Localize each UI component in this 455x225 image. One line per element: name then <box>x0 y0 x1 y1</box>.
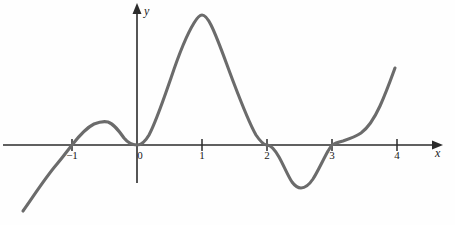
x-tick-label-zero: 0 <box>129 149 151 161</box>
plot-canvas <box>0 0 455 225</box>
x-tick-label-1: 1 <box>191 149 213 161</box>
function-graph-figure: −1 0 1 2 3 4 y x <box>0 0 455 225</box>
x-tick-label-4: 4 <box>386 149 408 161</box>
y-axis-arrowhead <box>133 3 142 14</box>
x-axis-name-label: x <box>435 146 440 161</box>
x-tick-label-2: 2 <box>256 149 278 161</box>
y-axis-name-label: y <box>144 4 149 19</box>
x-tick-label-3: 3 <box>321 149 343 161</box>
function-curve <box>23 15 395 211</box>
x-tick-label-minus1: −1 <box>61 149 83 161</box>
